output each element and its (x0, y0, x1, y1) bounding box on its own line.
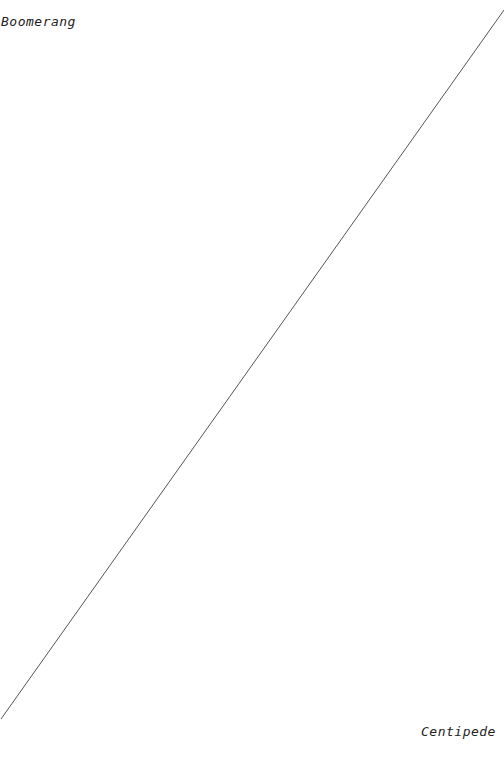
centipede-label: Centipede (421, 724, 496, 739)
boomerang-label: Boomerang (1, 14, 76, 29)
diagonal-line (0, 0, 504, 763)
